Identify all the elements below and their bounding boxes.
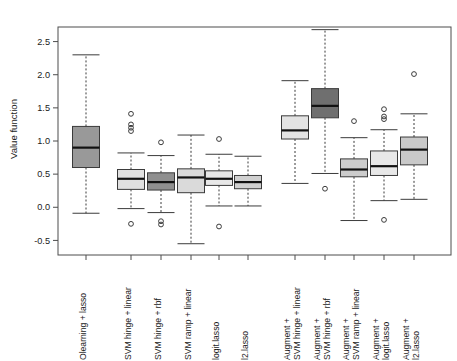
x-category-label: Augment +	[371, 318, 381, 360]
panel-border	[58, 27, 451, 255]
box-iqr	[401, 137, 428, 165]
x-category-label: logit.lasso	[211, 322, 221, 360]
plot-panel	[58, 27, 451, 255]
y-tick-label: 1.5	[37, 103, 50, 113]
box-iqr	[178, 169, 205, 193]
x-category-label: SVM hinge + linear	[123, 287, 133, 360]
y-tick-label: 1.0	[37, 136, 50, 146]
x-category-label: Augment +	[341, 318, 351, 360]
x-category-label: Augment +	[401, 318, 411, 360]
x-category-label: Augment +	[282, 318, 292, 360]
box-iqr	[312, 89, 339, 118]
x-category-label: SVM ramp + linear	[183, 288, 193, 360]
y-tick-label: 0.0	[37, 202, 50, 212]
x-category-label: logit.lasso	[381, 322, 391, 360]
x-category-label: SVM hinge + linear	[292, 287, 302, 360]
y-tick-label: 0.5	[37, 169, 50, 179]
x-category-label: Augment +	[312, 318, 322, 360]
box-iqr	[282, 116, 309, 139]
y-tick-label: 2.0	[37, 70, 50, 80]
x-category-label: Olearning + lasso	[78, 293, 88, 360]
y-tick-label: 2.5	[37, 37, 50, 47]
x-category-label: SVM hinge + rbf	[153, 298, 163, 360]
y-axis-title: Value function	[8, 99, 19, 159]
x-category-label: l2.lasso	[240, 331, 250, 360]
x-category-label: SVM hinge + rbf	[322, 298, 332, 360]
box-iqr	[371, 151, 398, 176]
chart-root: -0.50.00.51.01.52.02.5 Value function Ol…	[0, 0, 457, 361]
boxplot-chart: -0.50.00.51.01.52.02.5 Value function Ol…	[0, 0, 457, 361]
x-category-label: l2.lasso	[411, 331, 421, 360]
y-axis-label: Value function	[8, 99, 19, 159]
x-category-label: SVM ramp + linear	[351, 288, 361, 360]
y-tick-label: -0.5	[34, 236, 50, 246]
box-iqr	[341, 159, 368, 177]
